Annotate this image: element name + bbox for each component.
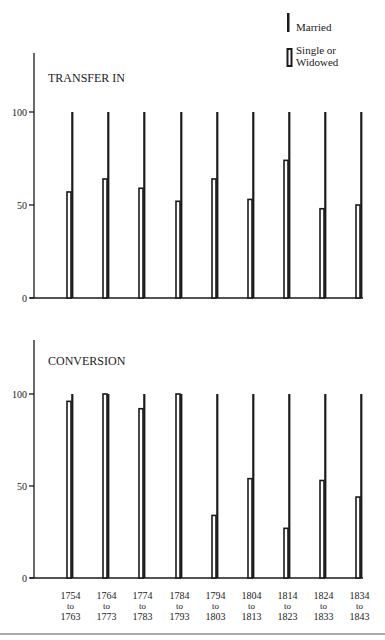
x-label-from: 1754 (61, 590, 81, 601)
x-label-to: 1783 (133, 611, 153, 622)
transfer-in-chart: 050100TRANSFER IN (12, 53, 363, 304)
bar-single-widowed (212, 179, 216, 298)
bar-married (288, 394, 290, 578)
legend-single-label-2: Widowed (296, 56, 339, 68)
x-label-to: 1843 (350, 611, 370, 622)
x-label-to: 1763 (61, 611, 81, 622)
x-label-to-word: to (67, 601, 75, 611)
bar-single-widowed (320, 209, 324, 298)
bar-married (180, 394, 182, 578)
x-label-to: 1823 (278, 611, 298, 622)
x-label-to-word: to (248, 601, 256, 611)
legend-married-swatch (287, 13, 290, 32)
y-tick-label: 100 (12, 107, 27, 118)
bar-married (71, 394, 73, 578)
bar-married (324, 112, 326, 298)
bar-married (216, 394, 218, 578)
bar-single-widowed (356, 497, 360, 578)
y-tick-label: 50 (17, 481, 27, 492)
bar-single-widowed (320, 480, 324, 578)
bar-single-widowed (103, 179, 107, 298)
chart-title: TRANSFER IN (48, 71, 125, 85)
y-tick-label: 0 (22, 573, 27, 584)
bar-single-widowed (284, 528, 288, 578)
x-label-to-word: to (103, 601, 111, 611)
bar-married (143, 112, 145, 298)
bar-married (216, 112, 218, 298)
x-label-to-word: to (356, 601, 364, 611)
bar-single-widowed (139, 409, 143, 578)
x-label-to-word: to (212, 601, 220, 611)
bar-single-widowed (248, 199, 252, 298)
bar-single-widowed (67, 192, 71, 298)
bar-married (180, 112, 182, 298)
x-label-from: 1814 (278, 590, 298, 601)
y-tick-label: 50 (17, 200, 27, 211)
bar-married (288, 112, 290, 298)
bar-single-widowed (67, 401, 71, 578)
bar-single-widowed (139, 188, 143, 298)
bar-married (252, 112, 254, 298)
x-label-to-word: to (320, 601, 328, 611)
y-tick-label: 0 (22, 293, 27, 304)
conversion-chart: 050100CONVERSION (12, 340, 363, 584)
x-label-from: 1804 (242, 590, 262, 601)
bar-single-widowed (176, 394, 180, 578)
x-label-to: 1813 (242, 611, 262, 622)
bar-single-widowed (248, 479, 252, 578)
bar-married (143, 394, 145, 578)
bar-single-widowed (103, 394, 107, 578)
x-label-from: 1774 (133, 590, 153, 601)
x-label-to: 1833 (314, 611, 334, 622)
bar-married (252, 394, 254, 578)
x-label-to-word: to (139, 601, 147, 611)
x-label-to: 1793 (170, 611, 190, 622)
x-label-from: 1784 (170, 590, 190, 601)
bar-married (71, 112, 73, 298)
y-tick-label: 100 (12, 389, 27, 400)
legend-single-swatch (288, 49, 292, 66)
x-label-to: 1773 (97, 611, 117, 622)
bar-single-widowed (176, 201, 180, 298)
bar-single-widowed (356, 205, 360, 298)
bar-married (324, 394, 326, 578)
bar-single-widowed (284, 160, 288, 298)
x-label-from: 1834 (350, 590, 370, 601)
bar-married (107, 394, 109, 578)
bar-single-widowed (212, 515, 216, 578)
x-label-from: 1794 (206, 590, 226, 601)
legend-single-label-1: Single or (296, 44, 336, 56)
bar-married (360, 394, 362, 578)
bar-married (360, 112, 362, 298)
x-label-from: 1764 (97, 590, 117, 601)
legend-married-label: Married (296, 21, 332, 33)
legend: MarriedSingle orWidowed (287, 13, 339, 68)
x-label-from: 1824 (314, 590, 334, 601)
x-axis-labels: 1754to17631764to17731774to17831784to1793… (61, 590, 370, 622)
bar-married (107, 112, 109, 298)
x-label-to-word: to (284, 601, 292, 611)
chart-canvas: MarriedSingle orWidowed050100TRANSFER IN… (0, 0, 385, 640)
x-label-to: 1803 (206, 611, 226, 622)
chart-title: CONVERSION (48, 354, 126, 368)
x-label-to-word: to (176, 601, 184, 611)
